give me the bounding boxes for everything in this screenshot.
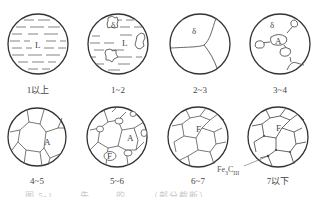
panel-label-8: 7以下 <box>267 177 290 186</box>
panel-4-delta-austenite: A δ <box>250 14 310 74</box>
panel-label-3: 2~3 <box>193 86 207 95</box>
panel-8-ferrite-cementite: F <box>244 107 308 167</box>
phase-label-delta: δ <box>192 26 196 36</box>
phase-label-A: A <box>275 36 282 46</box>
annotation-sub2: III <box>233 170 239 176</box>
phase-label-L: L <box>122 38 128 48</box>
phase-label-L: L <box>35 40 41 50</box>
phase-label-F: F <box>196 124 201 134</box>
panel-label-7: 6~7 <box>191 177 205 186</box>
panel-3-delta-grains: δ <box>170 14 230 74</box>
panel-label-1: 1以上 <box>27 86 50 95</box>
panel-label-2: 1~2 <box>111 86 125 95</box>
annotation-base: Fe <box>217 165 225 174</box>
cementite-annotation: Fe3CIII <box>217 165 239 176</box>
panel-5-austenite-grains: A <box>8 108 66 166</box>
figure-caption: 图 5-1 …… 先 …… 的 ……（部分截断） <box>25 189 210 197</box>
panel-7-ferrite-grains: F <box>168 107 228 167</box>
panel-1-liquid: L <box>8 14 68 74</box>
phase-label-A: A <box>44 137 51 147</box>
phase-label-F: F <box>107 151 112 161</box>
phase-label-delta: δ <box>270 20 274 30</box>
phase-label-delta: δ <box>111 20 115 30</box>
panel-2-delta-liquid: δ L <box>88 14 148 74</box>
panel-label-5: 4~5 <box>30 177 44 186</box>
microstructure-diagram: L δ L δ <box>0 0 317 197</box>
panel-label-4: 3~4 <box>273 86 287 95</box>
phase-label-F: F <box>276 123 281 133</box>
panel-6-austenite-ferrite: A F <box>87 107 147 167</box>
annotation-leader-line <box>244 157 266 166</box>
phase-label-A: A <box>127 133 134 143</box>
panel-label-6: 5~6 <box>110 177 124 186</box>
